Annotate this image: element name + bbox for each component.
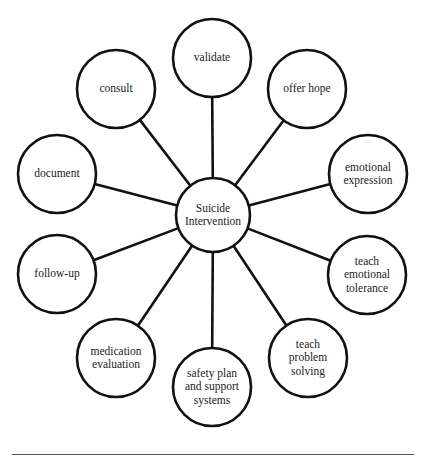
node-circle-emotional-expression [329, 135, 407, 213]
node-circle-follow-up [18, 235, 96, 313]
connector-follow-up [94, 228, 179, 260]
node-circle-validate [173, 19, 251, 97]
node-circle-teach-problem-solving [269, 319, 347, 397]
connector-validate [212, 97, 213, 178]
connector-document [95, 184, 178, 206]
node-circle-medication-evaluation [77, 319, 155, 397]
node-circles [18, 19, 407, 426]
connector-teach-problem-solving [234, 246, 287, 326]
node-circle-offer-hope [268, 50, 346, 128]
connector-emotional-expression [249, 184, 330, 206]
connector-offer-hope [235, 120, 284, 185]
node-circle-teach-emotional-tolerance [328, 236, 406, 314]
center-node-circle [176, 178, 250, 252]
node-circle-safety-plan [173, 348, 251, 426]
node-circle-document [18, 135, 96, 213]
node-circle-consult [77, 50, 155, 128]
connector-consult [140, 120, 191, 186]
caption-divider-rule [12, 454, 414, 455]
connector-medication-evaluation [138, 246, 192, 326]
suicide-intervention-diagram [0, 0, 425, 460]
connector-teach-emotional-tolerance [248, 228, 331, 260]
connector-safety-plan [212, 252, 213, 348]
